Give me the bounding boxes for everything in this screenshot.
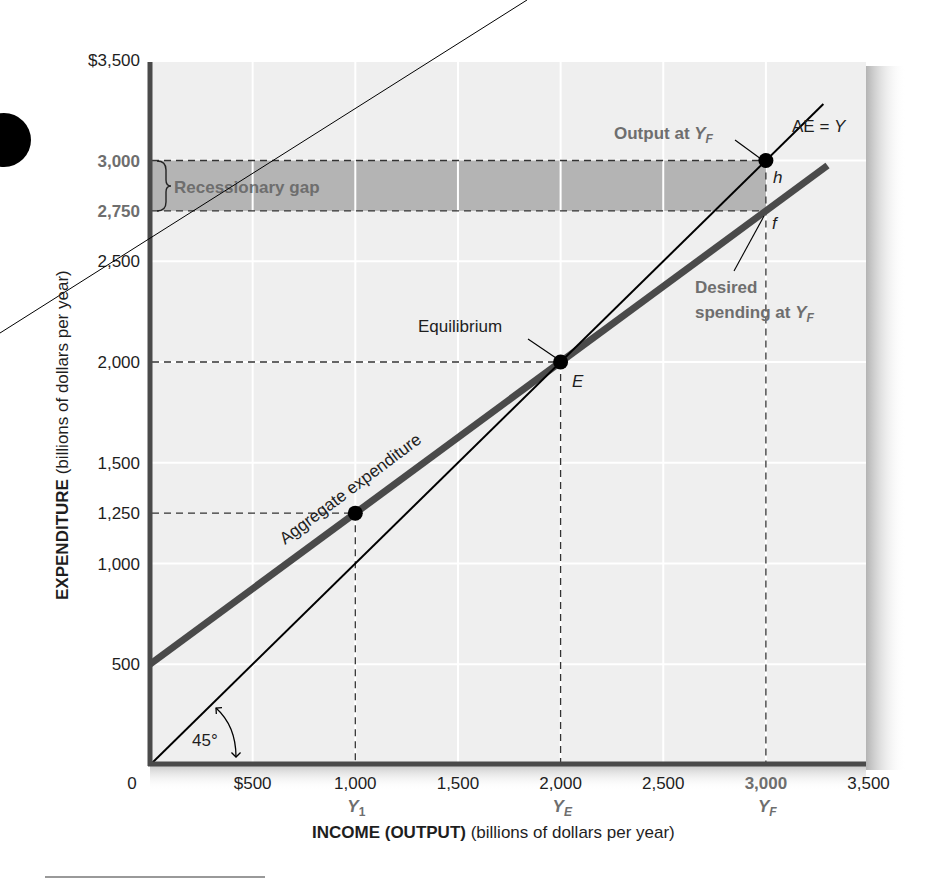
output-at-yf-label: Output at YF	[614, 124, 714, 146]
desired-spending-label-1: Desired	[695, 278, 757, 297]
point-E	[553, 355, 568, 370]
recessionary-gap-label: Recessionary gap	[174, 178, 320, 197]
y-tick-labels: 5001,0001,2501,5002,0002,5002,7503,000$3…	[88, 51, 140, 675]
y-tick-label: 1,250	[97, 504, 140, 523]
x-tick-label: 2,000	[539, 774, 582, 793]
point-h-label: h	[773, 168, 782, 187]
y-axis-title: EXPENDITURE (billions of dollars per yea…	[53, 270, 72, 600]
equilibrium-label: Equilibrium	[418, 317, 502, 336]
aggregate-expenditure-chart: 5001,0001,2501,5002,0002,5002,7503,000$3…	[0, 0, 939, 883]
y-tick-label: 2,500	[97, 252, 140, 271]
x-tick-label: 1,500	[437, 774, 480, 793]
x-tick-label: 2,500	[642, 774, 685, 793]
x-sub-label: YE	[553, 797, 573, 819]
x-axis-title: INCOME (OUTPUT) (billions of dollars per…	[312, 823, 675, 842]
desired-spending-label-2: spending at YF	[695, 303, 814, 325]
y-tick-label: $3,500	[88, 51, 140, 70]
y-var: Y	[834, 117, 847, 136]
point-Y1-point	[348, 506, 363, 521]
point-e-label: E	[572, 372, 584, 391]
y-tick-label: 1,500	[97, 454, 140, 473]
x-tick-label: 1,000	[334, 774, 377, 793]
x-tick-label: 0	[127, 774, 136, 793]
x-sub-label: Y1	[347, 797, 365, 819]
x-tick-label: 3,000	[745, 774, 788, 793]
x-tick-label: $500	[234, 774, 272, 793]
ae-eq-label: AE =	[792, 117, 834, 136]
point-h	[758, 153, 773, 168]
x-sub-label: YF	[758, 797, 777, 819]
y-tick-label: 2,000	[97, 353, 140, 372]
y-tick-label: 2,750	[97, 202, 140, 221]
y-tick-label: 1,000	[97, 555, 140, 574]
y-tick-label: 500	[112, 655, 140, 674]
angle-label: 45°	[192, 731, 218, 750]
forty-five-line-label: AE = Y	[792, 117, 847, 136]
y-tick-label: 3,000	[97, 152, 140, 171]
x-tick-label: 3,500	[847, 774, 890, 793]
panel-shadow-right	[866, 66, 906, 770]
page-bullet-icon	[0, 113, 31, 167]
